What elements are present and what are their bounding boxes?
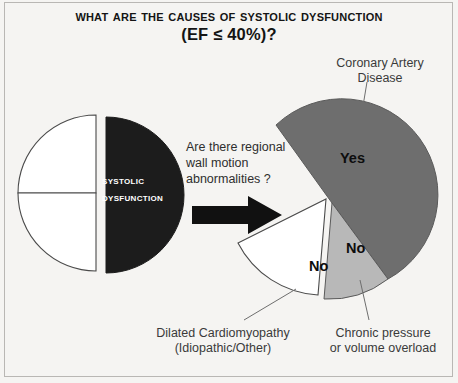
right-pie-label-no-dcm: No xyxy=(309,258,328,274)
right-pie-label-yes: Yes xyxy=(340,150,365,166)
rwma-question-text: Are there regional wall motion abnormali… xyxy=(186,139,296,187)
callout-dilated-cardiomyopathy: Dilated Cardiomyopathy (Idiopathic/Other… xyxy=(133,326,313,356)
left-pie-slice-upper-white xyxy=(18,115,96,193)
leader-line-dilated-cardiomyopathy xyxy=(244,289,296,320)
callout-coronary-artery-disease: Coronary Artery Disease xyxy=(312,56,448,86)
right-pie-label-no-overload: No xyxy=(346,240,365,256)
callout-chronic-overload: Chronic pressure or volume overload xyxy=(311,326,455,356)
left-pie-slice-lower-white xyxy=(18,193,96,271)
left-pie-label-systolic-dysfunction: Systolic Dysfunction xyxy=(102,172,194,206)
figure-canvas: What are the Causes of Systolic Dysfunct… xyxy=(0,0,458,383)
right-pie-group xyxy=(238,99,438,299)
